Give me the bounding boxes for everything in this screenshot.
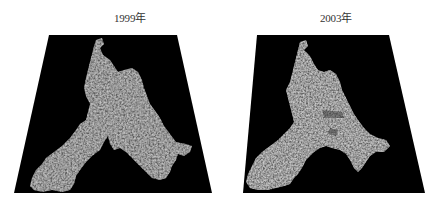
map-panel-1999: [14, 35, 212, 193]
map-panel-2003: [243, 35, 425, 193]
map-canvas: [0, 0, 442, 205]
